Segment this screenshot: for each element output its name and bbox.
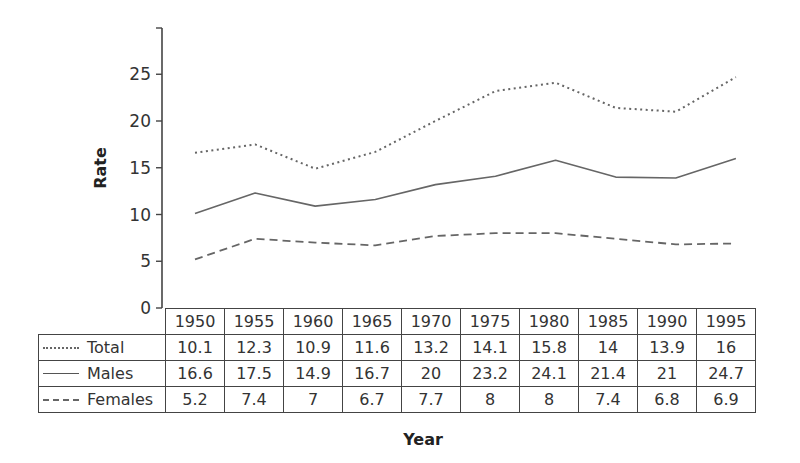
table-cell: 24.1 <box>520 361 579 387</box>
table-cell: 11.6 <box>343 335 402 361</box>
y-tick-label: 20 <box>129 111 151 131</box>
table-cell: 7.4 <box>579 387 638 413</box>
table-cell: 14.9 <box>284 361 343 387</box>
year-header: 1990 <box>638 309 697 335</box>
table-cell: 7.7 <box>402 387 461 413</box>
table-cell: 14.1 <box>461 335 520 361</box>
table-cell: 8 <box>520 387 579 413</box>
table-row-males: Males16.617.514.916.72023.224.121.42124.… <box>39 361 756 387</box>
table-cell: 23.2 <box>461 361 520 387</box>
y-axis-title: Rate <box>91 147 110 189</box>
y-tick-labels: 0510152025 <box>129 64 162 318</box>
y-tick-label: 5 <box>140 251 151 271</box>
table-cell: 13.9 <box>638 335 697 361</box>
year-header: 1985 <box>579 309 638 335</box>
table-cell: 21.4 <box>579 361 638 387</box>
legend-label: Males <box>87 364 133 383</box>
year-header: 1965 <box>343 309 402 335</box>
table-cell: 6.8 <box>638 387 697 413</box>
line-solid <box>195 158 736 213</box>
legend-cell: Females <box>39 387 166 413</box>
y-tick-label: 25 <box>129 64 151 84</box>
table-cell: 15.8 <box>520 335 579 361</box>
year-header: 1995 <box>697 309 756 335</box>
solid-line-swatch-icon <box>43 373 79 374</box>
legend-label: Females <box>87 390 153 409</box>
table-cell: 21 <box>638 361 697 387</box>
table-row-total: Total10.112.310.911.613.214.115.81413.91… <box>39 335 756 361</box>
dotted-line-swatch-icon <box>43 347 79 349</box>
legend-label: Total <box>87 338 124 357</box>
table-cell: 10.1 <box>166 335 225 361</box>
table-corner <box>39 309 166 335</box>
x-axis-title: Year <box>402 430 443 449</box>
year-header: 1970 <box>402 309 461 335</box>
data-table: 1950195519601965197019751980198519901995… <box>38 308 756 413</box>
legend-cell: Total <box>39 335 166 361</box>
dashed-line-swatch-icon <box>43 399 79 401</box>
year-header: 1975 <box>461 309 520 335</box>
table-cell: 8 <box>461 387 520 413</box>
table-cell: 17.5 <box>225 361 284 387</box>
table-cell: 7.4 <box>225 387 284 413</box>
year-header: 1950 <box>166 309 225 335</box>
y-tick-label: 15 <box>129 158 151 178</box>
table-cell: 16.6 <box>166 361 225 387</box>
table-cell: 13.2 <box>402 335 461 361</box>
y-tick-label: 10 <box>129 205 151 225</box>
table-header-row: 1950195519601965197019751980198519901995 <box>39 309 756 335</box>
table-cell: 10.9 <box>284 335 343 361</box>
table-cell: 16 <box>697 335 756 361</box>
line-dashed <box>195 233 736 259</box>
table-cell: 24.7 <box>697 361 756 387</box>
table-cell: 20 <box>402 361 461 387</box>
table-cell: 6.9 <box>697 387 756 413</box>
table-cell: 16.7 <box>343 361 402 387</box>
table-cell: 14 <box>579 335 638 361</box>
table-cell: 12.3 <box>225 335 284 361</box>
year-header: 1960 <box>284 309 343 335</box>
table-cell: 5.2 <box>166 387 225 413</box>
plot-lines <box>195 77 736 259</box>
year-header: 1955 <box>225 309 284 335</box>
legend-cell: Males <box>39 361 166 387</box>
table-row-females: Females5.27.476.77.7887.46.86.9 <box>39 387 756 413</box>
line-dotted <box>195 77 736 169</box>
table-cell: 6.7 <box>343 387 402 413</box>
year-header: 1980 <box>520 309 579 335</box>
table-cell: 7 <box>284 387 343 413</box>
